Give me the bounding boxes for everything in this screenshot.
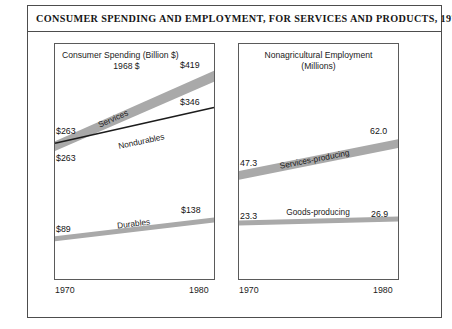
panel-nonagricultural-employment: Nonagricultural Employment (Millions) Se… <box>238 43 399 280</box>
panel-consumer-spending: Consumer Spending (Billion $) 1968 $ Ser… <box>54 43 215 280</box>
value-label-services-producing-start: 47.3 <box>240 158 257 168</box>
axis-label-right-start: 1970 <box>239 285 259 295</box>
value-label-services-start-alt: $263 <box>56 153 76 163</box>
plot-area-employment: Services-producing Goods-producing <box>239 44 398 279</box>
axis-label-right-end: 1980 <box>373 285 393 295</box>
value-label-goods-producing-end: 26.9 <box>371 209 388 219</box>
series-label-services: Services <box>96 108 129 130</box>
axis-label-left-end: 1980 <box>189 285 209 295</box>
series-label-services-producing: Services-producing <box>279 147 351 170</box>
series-label-nondurables: Nondurables <box>117 131 165 151</box>
plot-area-consumer-spending: Services Nondurables Durables <box>55 44 214 279</box>
value-label-services-producing-end: 62.0 <box>370 126 387 136</box>
axis-label-left-start: 1970 <box>55 285 75 295</box>
value-label-services-start: $263 <box>56 126 76 136</box>
value-label-goods-producing-start: 23.3 <box>240 211 257 221</box>
title-divider <box>28 31 441 32</box>
value-label-nondurables-end: $346 <box>180 97 200 107</box>
chart-figure: CONSUMER SPENDING AND EMPLOYMENT, FOR SE… <box>0 0 452 329</box>
value-label-durables-end: $138 <box>181 205 201 215</box>
value-label-services-end: $419 <box>180 60 200 70</box>
value-label-durables-start: $89 <box>56 224 71 234</box>
page-title: CONSUMER SPENDING AND EMPLOYMENT, FOR SE… <box>36 13 436 24</box>
series-label-goods-producing: Goods-producing <box>286 207 350 217</box>
